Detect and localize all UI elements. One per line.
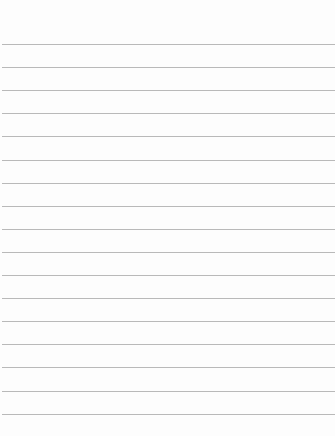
ruled-line xyxy=(2,44,335,45)
ruled-line xyxy=(2,113,335,114)
ruled-line xyxy=(2,252,335,253)
ruled-line xyxy=(2,160,335,161)
ruled-line xyxy=(2,344,335,345)
ruled-line xyxy=(2,183,335,184)
ruled-line xyxy=(2,67,335,68)
ruled-line xyxy=(2,275,335,276)
ruled-line xyxy=(2,90,335,91)
ruled-line xyxy=(2,298,335,299)
ruled-line xyxy=(2,136,335,137)
ruled-line xyxy=(2,206,335,207)
ruled-line xyxy=(2,229,335,230)
lined-paper-sheet xyxy=(0,0,335,436)
ruled-line xyxy=(2,321,335,322)
ruled-line xyxy=(2,391,335,392)
ruled-line xyxy=(2,414,335,415)
ruled-line xyxy=(2,367,335,368)
